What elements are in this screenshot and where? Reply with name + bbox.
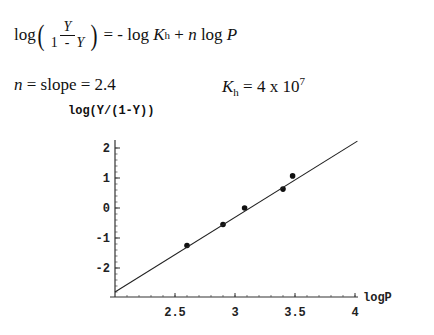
y-tick-label: -2: [96, 262, 110, 276]
y-tick-label: 0: [103, 202, 110, 216]
x-axis-label: logP: [363, 291, 392, 305]
y-tick-label: -1: [96, 232, 110, 246]
y-tick-label: 2: [103, 142, 110, 156]
chart-plot: -2-10122.533.54logP: [0, 0, 434, 335]
x-tick-label: 4: [351, 306, 358, 320]
x-tick-label: 2.5: [164, 306, 186, 320]
y-tick-label: 1: [103, 172, 110, 186]
fit-line: [115, 141, 357, 292]
x-tick-label: 3: [231, 306, 238, 320]
x-tick-label: 3.5: [284, 306, 306, 320]
data-point: [290, 173, 296, 179]
